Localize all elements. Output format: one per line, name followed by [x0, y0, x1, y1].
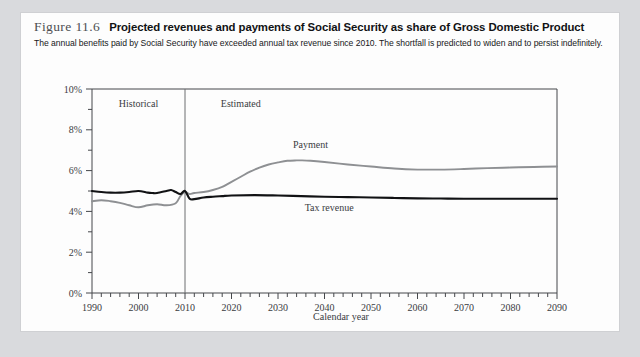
y-axis-ticks: 0%2%4%6%8%10% — [64, 84, 92, 299]
x-axis-tick-label: 2060 — [408, 302, 428, 313]
series-line-payment — [92, 160, 557, 207]
y-axis-tick-label: 4% — [69, 206, 82, 217]
x-axis-tick-label: 2090 — [547, 302, 567, 313]
annotation-estimated: Estimated — [221, 98, 261, 109]
x-axis-tick-label: 2070 — [454, 302, 474, 313]
x-axis-tick-label: 2020 — [222, 302, 242, 313]
axis-frame — [92, 89, 557, 293]
axis-frame-box — [92, 89, 557, 293]
x-axis-tick-label: 2010 — [175, 302, 195, 313]
x-axis-tick-label: 2080 — [501, 302, 521, 313]
y-axis-tick-label: 6% — [69, 165, 82, 176]
y-axis-tick-label: 10% — [64, 84, 82, 95]
chart-plot-area: 0%2%4%6%8%10% 19902000201020202030204020… — [21, 13, 619, 331]
series-line-tax-revenue — [92, 190, 557, 200]
x-axis-tick-label: 1990 — [82, 302, 102, 313]
annotation-tax-revenue: Tax revenue — [305, 202, 355, 213]
x-axis-ticks: 1990200020102020203020402050206020702080… — [82, 293, 567, 313]
x-axis-title: Calendar year — [313, 311, 369, 322]
figure-card: Figure 11.6 Projected revenues and payme… — [21, 13, 619, 331]
annotation-payment: Payment — [293, 139, 328, 150]
x-axis-tick-label: 2030 — [268, 302, 288, 313]
y-axis-tick-label: 2% — [69, 247, 82, 258]
line-chart: 0%2%4%6%8%10% 19902000201020202030204020… — [21, 13, 619, 331]
y-axis-tick-label: 0% — [69, 288, 82, 299]
chart-series-group — [92, 160, 557, 207]
y-axis-tick-label: 8% — [69, 124, 82, 135]
x-axis-tick-label: 2000 — [129, 302, 149, 313]
annotation-historical: Historical — [119, 98, 159, 109]
